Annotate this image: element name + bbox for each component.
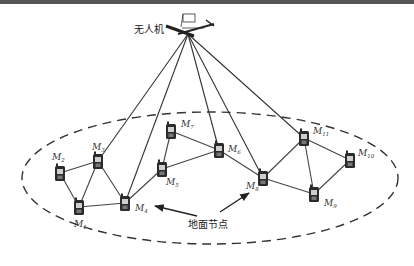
- node-m8: M8: [245, 169, 268, 193]
- handset-icon: [214, 141, 224, 159]
- handset-icon: [309, 185, 319, 203]
- node-label: M7: [180, 119, 194, 130]
- node-label: M8: [245, 181, 259, 192]
- node-label: M11: [312, 126, 329, 137]
- uav-link-m3: [98, 34, 188, 161]
- node-m7: M7: [166, 119, 194, 139]
- node-label: M2: [51, 152, 65, 163]
- handset-icon: [345, 151, 355, 169]
- node-m9: M9: [309, 185, 337, 210]
- node-m3: M3: [91, 142, 105, 169]
- node-label: M3: [91, 142, 105, 153]
- uav-icon: [166, 14, 214, 36]
- uav-network-diagram: M1M2M3M4M5M6M7M8M9M10M11 无人机 地面节点: [0, 0, 414, 266]
- edge-m2-m3: [60, 161, 98, 173]
- node-m2: M2: [51, 152, 65, 181]
- edge-m8-m11: [263, 138, 304, 178]
- node-label: M6: [227, 144, 241, 155]
- edge-m4-m5: [125, 169, 162, 203]
- edge-m10-m9: [314, 160, 350, 194]
- edge-m7-m6: [171, 131, 219, 150]
- uav-label: 无人机: [134, 23, 164, 35]
- uav-link-m4: [125, 34, 188, 203]
- edge-m1-m4: [79, 203, 125, 207]
- edge-m6-m8: [219, 150, 263, 178]
- node-m4: M4: [120, 194, 148, 215]
- handset-icon: [258, 169, 268, 187]
- node-m1: M1: [73, 198, 87, 231]
- node-m10: M10: [345, 148, 375, 168]
- handset-icon: [166, 122, 176, 140]
- edge-m11-m10: [304, 138, 350, 160]
- uav-link-m11: [188, 34, 304, 138]
- edge-m5-m6: [162, 150, 219, 169]
- ground-nodes: M1M2M3M4M5M6M7M8M9M10M11: [51, 119, 375, 230]
- node-m5: M5: [157, 160, 179, 189]
- handset-icon: [55, 164, 65, 182]
- node-label: M5: [165, 177, 179, 188]
- uav-links: [98, 34, 304, 203]
- edge-m8-m9: [263, 178, 314, 194]
- handset-icon: [120, 194, 130, 212]
- node-label: M1: [73, 219, 87, 230]
- handset-icon: [157, 160, 167, 178]
- arrow-0: [155, 206, 197, 216]
- pointer-arrows: [155, 193, 249, 216]
- node-label: M9: [323, 198, 337, 209]
- node-label: M10: [357, 148, 375, 159]
- edge-m11-m9: [304, 138, 314, 194]
- handset-icon: [74, 198, 84, 216]
- handset-icon: [93, 152, 103, 170]
- node-label: M4: [134, 203, 148, 214]
- handset-icon: [299, 129, 309, 147]
- ground-node-label: 地面节点: [188, 218, 228, 230]
- uav-link-m6: [188, 34, 219, 150]
- arrow-1: [220, 193, 249, 212]
